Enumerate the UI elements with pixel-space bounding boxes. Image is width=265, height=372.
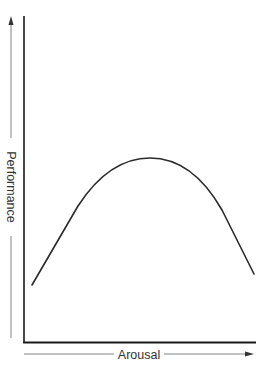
- x-arrow-head-icon: [245, 352, 254, 357]
- x-axis-label: Arousal: [118, 348, 160, 362]
- y-axis-label: Performance: [4, 151, 18, 223]
- inverted-u-diagram: Performance Arousal: [0, 0, 265, 372]
- y-arrow-head-icon: [9, 16, 14, 25]
- performance-curve: [32, 158, 254, 285]
